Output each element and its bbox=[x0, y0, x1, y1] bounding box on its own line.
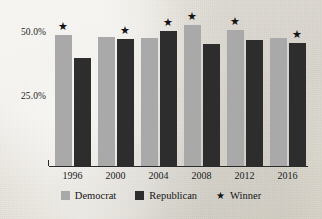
bar-group-2008: ★ bbox=[184, 10, 220, 166]
bar-republican-2008 bbox=[203, 44, 220, 166]
plot-area: ★★★★★★ bbox=[49, 10, 307, 166]
winner-star-2012: ★ bbox=[230, 16, 240, 27]
bar-democrat-2008 bbox=[184, 25, 201, 166]
x-tick-label-2008: 2008 bbox=[192, 170, 212, 181]
winner-star-2008: ★ bbox=[187, 11, 197, 22]
legend-label-republican: Republican bbox=[149, 190, 197, 201]
bar-republican-2004 bbox=[160, 31, 177, 166]
bar-democrat-2016 bbox=[270, 38, 287, 166]
legend-star-icon: ★ bbox=[216, 191, 225, 201]
bar-republican-2016 bbox=[289, 43, 306, 166]
winner-star-1996: ★ bbox=[58, 21, 68, 32]
bar-group-2012: ★ bbox=[227, 10, 263, 166]
legend-swatch-republican-icon bbox=[135, 191, 144, 200]
legend-label-winner: Winner bbox=[230, 190, 261, 201]
bar-democrat-2012 bbox=[227, 30, 244, 166]
bar-group-2000: ★ bbox=[98, 10, 134, 166]
bar-group-1996: ★ bbox=[55, 10, 91, 166]
bar-group-2016: ★ bbox=[270, 10, 306, 166]
x-tick-label-2016: 2016 bbox=[278, 170, 298, 181]
x-tick-label-2012: 2012 bbox=[235, 170, 255, 181]
x-axis-line bbox=[49, 166, 308, 167]
x-tick-label-2000: 2000 bbox=[106, 170, 126, 181]
x-tick-label-1996: 1996 bbox=[63, 170, 83, 181]
chart-legend: DemocratRepublican★Winner bbox=[0, 190, 322, 201]
y-tick-label-25: 25.0% bbox=[2, 91, 46, 101]
bar-republican-1996 bbox=[74, 58, 91, 166]
bar-republican-2012 bbox=[246, 40, 263, 166]
bar-group-2004: ★ bbox=[141, 10, 177, 166]
bar-democrat-2000 bbox=[98, 37, 115, 166]
winner-star-2016: ★ bbox=[292, 29, 302, 40]
bar-democrat-2004 bbox=[141, 38, 158, 166]
bar-democrat-1996 bbox=[55, 35, 72, 166]
x-tick-label-2004: 2004 bbox=[149, 170, 169, 181]
legend-item-winner[interactable]: ★Winner bbox=[216, 190, 261, 201]
bar-chart: 50.0% 25.0% ★★★★★★ 199620002004200820122… bbox=[0, 0, 322, 219]
bar-republican-2000 bbox=[117, 39, 134, 166]
winner-star-2004: ★ bbox=[163, 17, 173, 28]
legend-label-democrat: Democrat bbox=[75, 190, 116, 201]
legend-item-democrat[interactable]: Democrat bbox=[61, 190, 116, 201]
legend-swatch-democrat-icon bbox=[61, 191, 70, 200]
winner-star-2000: ★ bbox=[120, 25, 130, 36]
legend-item-republican[interactable]: Republican bbox=[135, 190, 197, 201]
y-tick-label-50: 50.0% bbox=[2, 27, 46, 37]
